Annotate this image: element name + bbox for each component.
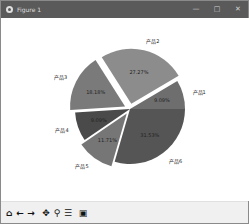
close-button[interactable]: ✕: [234, 6, 242, 13]
home-button[interactable]: ⌂: [4, 207, 14, 219]
slice-percent-label: 9.09%: [91, 117, 107, 123]
configure-subplots-button[interactable]: ☰: [63, 207, 73, 219]
slice-category-label: 产品1: [193, 89, 206, 96]
minimize-button[interactable]: —: [192, 6, 200, 13]
pan-button[interactable]: ✥: [41, 207, 51, 219]
maximize-button[interactable]: □: [213, 6, 221, 13]
window-title: Figure 1: [17, 6, 41, 13]
slice-category-label: 产品2: [146, 38, 159, 45]
figure-canvas[interactable]: 9.09%产品127.27%产品218.18%产品39.09%产品411.71%…: [2, 18, 249, 201]
slice-category-label: 产品4: [55, 127, 68, 134]
slice-percent-label: 9.09%: [154, 97, 170, 103]
back-button[interactable]: ←: [15, 207, 25, 219]
slice-category-label: 产品5: [75, 163, 88, 170]
slice-percent-label: 18.18%: [86, 89, 105, 95]
slice-percent-label: 27.27%: [129, 69, 148, 75]
zoom-button[interactable]: ⚲: [52, 207, 62, 219]
title-bar[interactable]: Figure 1 — □ ✕: [1, 1, 248, 18]
slice-percent-label: 31.53%: [140, 132, 159, 138]
pie-chart: 9.09%产品127.27%产品218.18%产品39.09%产品411.71%…: [2, 18, 249, 201]
window-controls: — □ ✕: [192, 1, 242, 18]
slice-category-label: 产品3: [54, 74, 67, 81]
slice-percent-label: 11.71%: [98, 137, 117, 143]
slice-category-label: 产品6: [169, 158, 182, 165]
app-icon: [6, 6, 13, 13]
figure-window: Figure 1 — □ ✕ 9.09%产品127.27%产品218.18%产品…: [0, 0, 249, 224]
navigation-toolbar: ⌂ ← → ✥ ⚲ ☰ ▣: [1, 201, 248, 223]
forward-button[interactable]: →: [26, 207, 36, 219]
save-button[interactable]: ▣: [78, 207, 88, 219]
